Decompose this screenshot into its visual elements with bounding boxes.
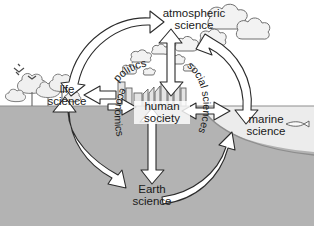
node-human-society: human society bbox=[134, 101, 190, 124]
node-label-line2: science bbox=[235, 126, 297, 138]
node-earth-science: Earth science bbox=[118, 184, 186, 207]
node-label-line2: science bbox=[118, 196, 186, 208]
node-label-line2: science bbox=[152, 20, 236, 32]
node-label-line1: Earth bbox=[118, 184, 186, 196]
node-atmospheric-science: atmospheric science bbox=[152, 8, 236, 31]
node-label-line2: society bbox=[134, 113, 190, 125]
node-label-line2: science bbox=[38, 96, 96, 108]
diagram-canvas: atmospheric science (thin, wide arc over… bbox=[0, 0, 314, 226]
node-label-line1: atmospheric bbox=[152, 8, 236, 20]
node-label-line1: human bbox=[134, 101, 190, 113]
node-marine-science: marine science bbox=[235, 114, 297, 137]
node-life-science: life science bbox=[38, 84, 96, 107]
node-label-line1: life bbox=[38, 84, 96, 96]
node-label-line1: marine bbox=[235, 114, 297, 126]
